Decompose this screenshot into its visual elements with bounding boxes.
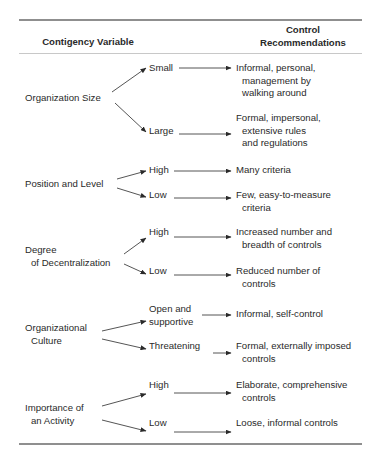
level-threatening: Threatening [149, 340, 200, 353]
arrow-importance-low [102, 420, 146, 431]
variable-line: an Activity [25, 415, 84, 428]
level-high: High [149, 164, 169, 177]
level-low: Low [149, 265, 167, 278]
rec-high: Elaborate, comprehensive controls [236, 379, 347, 404]
rec-line: Increased number and [236, 226, 332, 239]
variable-line: Culture [25, 335, 87, 348]
level-line: supportive [149, 316, 193, 329]
rec-high: Many criteria [236, 164, 291, 177]
level-open-and-supportive: Open and supportive [149, 303, 193, 328]
level-large: Large [149, 125, 174, 138]
arrow-orgsize-small [112, 68, 146, 92]
variable-line: Importance of [25, 402, 84, 415]
rec-line: Formal, impersonal, [236, 112, 321, 125]
rec-high: Increased number and breadth of controls [236, 226, 332, 251]
rec-line: Informal, self-control [236, 308, 323, 321]
arrow-position-low [117, 188, 146, 197]
rec-line: Informal, personal, [236, 62, 315, 75]
rec-line: breadth of controls [236, 239, 332, 252]
variable-position-and-level: Position and Level [25, 178, 103, 191]
variable-degree-of-decentralization: Degree of Decentralization [25, 244, 110, 269]
arrow-decent-low [124, 264, 146, 274]
rec-line: controls [236, 278, 320, 291]
variable-organization-size: Organization Size [25, 92, 101, 105]
variable-line: Organizational [25, 322, 87, 335]
rec-low: Loose, informal controls [236, 417, 338, 430]
rec-line: Formal, externally imposed [236, 340, 351, 353]
arrow-culture-threat [102, 339, 146, 349]
rec-large: Formal, impersonal, extensive rules and … [236, 112, 321, 150]
level-small: Small [149, 62, 173, 75]
arrow-decent-high [124, 238, 146, 254]
rec-small: Informal, personal, management by walkin… [236, 62, 315, 100]
rec-line: Reduced number of [236, 265, 320, 278]
rec-line: Few, easy-to-measure [236, 189, 331, 202]
variable-line: of Decentralization [25, 257, 110, 270]
rec-line: controls [236, 392, 347, 405]
level-low: Low [149, 189, 167, 202]
arrow-position-high [117, 171, 146, 179]
rec-line: controls [236, 353, 351, 366]
variable-line: Degree [25, 244, 110, 257]
rec-line: walking around [236, 87, 315, 100]
arrow-orgsize-large [115, 103, 146, 132]
variable-organizational-culture: Organizational Culture [25, 322, 87, 347]
rec-threatening: Formal, externally imposed controls [236, 340, 351, 365]
level-low: Low [149, 417, 167, 430]
level-line: Open and [149, 303, 193, 316]
rec-open: Informal, self-control [236, 308, 323, 321]
rec-line: extensive rules [236, 125, 321, 138]
rec-line: management by [236, 75, 315, 88]
arrow-importance-high [102, 394, 146, 406]
rec-line: Loose, informal controls [236, 417, 338, 430]
rec-line: Many criteria [236, 164, 291, 177]
rec-line: Elaborate, comprehensive [236, 379, 347, 392]
variable-importance-of-an-activity: Importance of an Activity [25, 402, 84, 427]
rec-low: Reduced number of controls [236, 265, 320, 290]
arrow-culture-open [102, 321, 146, 331]
level-high: High [149, 379, 169, 392]
rec-low: Few, easy-to-measure criteria [236, 189, 331, 214]
rec-line: criteria [236, 202, 331, 215]
level-high: High [149, 226, 169, 239]
rec-line: and regulations [236, 137, 321, 150]
